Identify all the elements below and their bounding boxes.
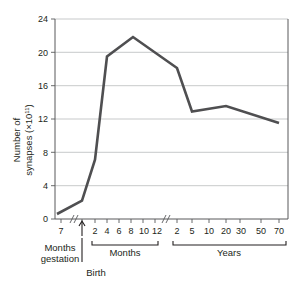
y-tick-label: 4: [43, 181, 48, 191]
y-axis-title-line1: Number of: [11, 117, 22, 162]
years-caption: Years: [217, 247, 241, 258]
y-axis-title-line2: synapses (×1011): [23, 104, 34, 175]
gestation-caption-line2: gestation: [41, 253, 80, 264]
gestation-caption-line1: Months: [44, 242, 75, 253]
x-tick-label-year-10: 10: [204, 226, 214, 236]
birth-label: Birth: [86, 267, 106, 278]
chart-svg: 24 20 16 12 8 4 0 Number of synapses (×1…: [0, 0, 299, 291]
y-tick-label: 8: [43, 148, 48, 158]
x-tick-label-year-70: 70: [274, 226, 284, 236]
y-tick-label: 12: [38, 114, 48, 124]
months-caption: Months: [109, 247, 140, 258]
x-tick-label-year-30: 30: [236, 226, 246, 236]
x-tick-label-month-4: 4: [104, 226, 109, 236]
x-tick-label-month-12: 12: [152, 226, 162, 236]
synapse-density-chart: 24 20 16 12 8 4 0 Number of synapses (×1…: [0, 0, 299, 291]
y-axis-title-line2-text: synapses (×10: [23, 114, 34, 176]
y-tick-label: 24: [38, 14, 48, 24]
x-tick-label-month-6: 6: [116, 226, 121, 236]
x-tick-label-year-50: 50: [256, 226, 266, 236]
y-axis-title-close: ): [23, 104, 34, 107]
x-tick-label-month-8: 8: [128, 226, 133, 236]
x-tick-label-month-10: 10: [139, 226, 149, 236]
y-tick-label: 20: [38, 48, 48, 58]
x-tick-label-gestation-7: 7: [58, 226, 63, 236]
x-tick-label-year-20: 20: [221, 226, 231, 236]
x-tick-label-year-5: 5: [189, 226, 194, 236]
x-tick-label-year-2: 2: [174, 226, 179, 236]
y-tick-label: 16: [38, 81, 48, 91]
y-tick-label: 0: [43, 214, 48, 224]
x-tick-label-month-2: 2: [92, 226, 97, 236]
